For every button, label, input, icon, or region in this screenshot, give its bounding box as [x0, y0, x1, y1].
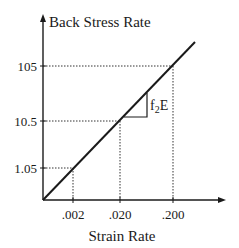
y-axis-arrow-icon [40, 14, 46, 22]
slope-label: f2E [150, 98, 168, 115]
y-tick-label: 10.5 [14, 114, 37, 129]
x-tick-label: .020 [109, 207, 132, 222]
y-axis-label: Back Stress Rate [49, 14, 151, 30]
x-tick-label: .002 [62, 207, 85, 222]
x-axis-arrow-icon [218, 197, 226, 203]
x-axis-label: Strain Rate [88, 228, 155, 244]
chart: f2E Back Stress Rate 105 10.5 1.05 .002 … [0, 0, 239, 248]
x-tick-label: .200 [162, 207, 185, 222]
y-tick-label: 105 [18, 59, 38, 74]
y-tick-label: 1.05 [14, 161, 37, 176]
